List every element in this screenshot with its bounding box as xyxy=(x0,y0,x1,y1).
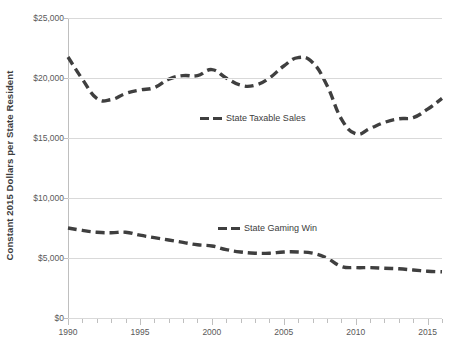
y-axis-tick-labels: $0$5,000$10,000$15,000$20,000$25,000 xyxy=(18,0,64,356)
gridline xyxy=(68,78,442,79)
x-tick-mark xyxy=(399,319,400,323)
x-tick-mark xyxy=(384,319,385,323)
x-tick-mark xyxy=(140,319,141,325)
gridline xyxy=(68,198,442,199)
chart-container: Constant 2015 Dollars per State Resident… xyxy=(0,0,457,356)
x-tick-mark xyxy=(298,319,299,323)
legend-swatch-icon xyxy=(218,227,240,230)
x-tick-mark xyxy=(356,319,357,325)
x-tick-mark xyxy=(241,319,242,323)
x-tick-mark xyxy=(413,319,414,323)
x-tick-mark xyxy=(284,319,285,325)
y-tick-label: $0 xyxy=(20,313,64,323)
y-tick-mark xyxy=(64,18,68,19)
x-tick-mark xyxy=(126,319,127,323)
legend-label-state-taxable-sales: State Taxable Sales xyxy=(226,113,305,123)
gridline xyxy=(68,138,442,139)
y-tick-label: $25,000 xyxy=(20,13,64,23)
x-tick-mark xyxy=(212,319,213,325)
x-tick-mark xyxy=(341,319,342,323)
x-tick-mark xyxy=(442,319,443,323)
legend-item-state-taxable-sales: State Taxable Sales xyxy=(200,113,305,123)
x-tick-mark xyxy=(197,319,198,323)
x-tick-label: 2005 xyxy=(274,327,293,337)
x-tick-mark xyxy=(255,319,256,323)
y-tick-mark xyxy=(64,138,68,139)
x-tick-label: 2015 xyxy=(418,327,437,337)
y-tick-mark xyxy=(64,78,68,79)
x-tick-mark xyxy=(82,319,83,323)
series-layer xyxy=(68,18,442,318)
x-tick-mark xyxy=(428,319,429,325)
x-tick-label: 1995 xyxy=(130,327,149,337)
legend-swatch-icon xyxy=(200,117,222,120)
y-tick-label: $10,000 xyxy=(20,193,64,203)
x-tick-label: 2010 xyxy=(346,327,365,337)
legend-item-state-gaming-win: State Gaming Win xyxy=(218,223,317,233)
y-axis-title-text: Constant 2015 Dollars per State Resident xyxy=(5,70,16,260)
y-axis-title: Constant 2015 Dollars per State Resident xyxy=(0,0,20,330)
y-tick-mark xyxy=(64,258,68,259)
gridline xyxy=(68,18,442,19)
x-tick-mark xyxy=(183,319,184,323)
x-tick-mark xyxy=(370,319,371,323)
x-tick-mark xyxy=(226,319,227,323)
x-tick-mark xyxy=(111,319,112,323)
x-tick-label: 1990 xyxy=(59,327,78,337)
legend-label-state-gaming-win: State Gaming Win xyxy=(244,223,317,233)
gridline xyxy=(68,258,442,259)
y-tick-label: $5,000 xyxy=(20,253,64,263)
x-tick-mark xyxy=(154,319,155,323)
y-tick-mark xyxy=(64,198,68,199)
x-tick-mark xyxy=(68,319,69,325)
series-line-state-gaming-win xyxy=(68,228,442,272)
x-tick-label: 2000 xyxy=(202,327,221,337)
x-tick-mark xyxy=(269,319,270,323)
x-tick-mark xyxy=(327,319,328,323)
x-tick-mark xyxy=(97,319,98,323)
y-tick-label: $20,000 xyxy=(20,73,64,83)
x-tick-mark xyxy=(313,319,314,323)
x-tick-mark xyxy=(169,319,170,323)
y-tick-label: $15,000 xyxy=(20,133,64,143)
plot-area xyxy=(68,18,442,318)
